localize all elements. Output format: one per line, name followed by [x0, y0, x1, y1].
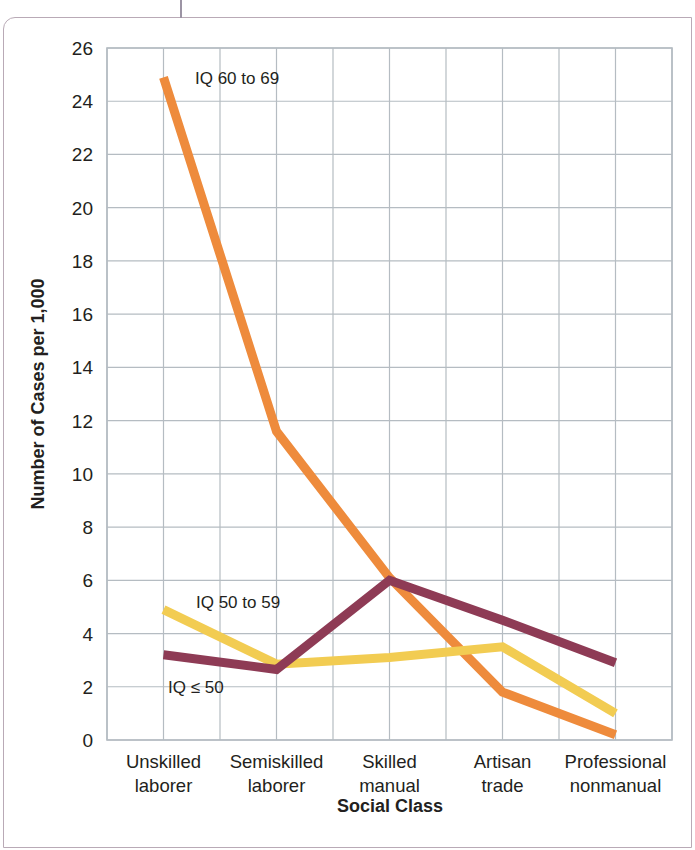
y-axis-tick-label: 2	[82, 677, 93, 698]
y-axis-tick-label: 6	[82, 570, 93, 591]
x-axis-title: Social Class	[337, 796, 443, 816]
x-axis-category-label: Skilled	[362, 751, 417, 772]
x-axis-category-label: laborer	[248, 775, 306, 796]
x-axis-category-label: Semiskilled	[230, 751, 324, 772]
series-annotation-label: IQ 50 to 59	[196, 593, 280, 612]
x-axis-category-label: Artisan	[474, 751, 532, 772]
x-axis-category-label: nonmanual	[570, 775, 662, 796]
y-axis-tick-label: 14	[72, 357, 94, 378]
x-axis-category-label: manual	[359, 775, 420, 796]
y-axis-tick-label: 22	[72, 144, 93, 165]
series-annotation-label: IQ 60 to 69	[195, 69, 279, 88]
y-axis-tick-label: 18	[72, 251, 93, 272]
y-axis-tick-label: 20	[72, 198, 93, 219]
x-axis-category-label: Unskilled	[126, 751, 201, 772]
y-axis-tick-label: 26	[72, 38, 93, 59]
x-axis-category-labels: UnskilledlaborerSemiskilledlaborerSkille…	[126, 751, 666, 796]
x-axis-category-label: Professional	[565, 751, 667, 772]
line-chart: 02468101214161820222426 Unskilledlaborer…	[0, 0, 695, 850]
y-axis-title: Number of Cases per 1,000	[28, 278, 48, 509]
y-axis-tick-label: 0	[82, 730, 93, 751]
y-axis-tick-label: 12	[72, 411, 93, 432]
y-axis-tick-label: 16	[72, 304, 93, 325]
x-axis-category-label: laborer	[135, 775, 193, 796]
y-axis-tick-label: 24	[72, 91, 94, 112]
y-axis-tick-label: 10	[72, 464, 93, 485]
y-axis-tick-label: 8	[82, 517, 93, 538]
y-axis-tick-labels: 02468101214161820222426	[72, 38, 94, 751]
y-axis-tick-label: 4	[82, 624, 93, 645]
series-annotation-label: IQ ≤ 50	[168, 678, 224, 697]
x-axis-category-label: trade	[481, 775, 523, 796]
chart-canvas: 02468101214161820222426 Unskilledlaborer…	[0, 0, 695, 850]
